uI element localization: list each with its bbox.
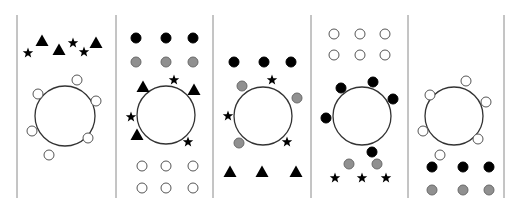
panel-2 xyxy=(126,33,201,193)
gray-circle-icon xyxy=(458,185,468,195)
star-icon xyxy=(357,173,367,183)
star-icon xyxy=(126,112,136,122)
gray-circle-icon xyxy=(237,81,247,91)
gray-circle-icon xyxy=(427,185,437,195)
white-circle-icon xyxy=(473,134,483,144)
star-icon xyxy=(68,38,78,48)
black-circle-icon xyxy=(259,57,269,67)
star-icon xyxy=(282,137,292,147)
white-circle-icon xyxy=(380,50,390,60)
white-circle-icon xyxy=(27,126,37,136)
black-circle-icon xyxy=(484,162,494,172)
gray-circle-icon xyxy=(344,159,354,169)
gray-circle-icon xyxy=(234,138,244,148)
triangle-icon xyxy=(256,166,269,177)
gray-circle-icon xyxy=(484,185,494,195)
star-icon xyxy=(23,48,33,58)
gray-circle-icon xyxy=(161,57,171,67)
black-circle-icon xyxy=(388,94,398,104)
white-circle-icon xyxy=(44,150,54,160)
cell-circle xyxy=(137,86,195,144)
white-circle-icon xyxy=(161,161,171,171)
white-circle-icon xyxy=(137,161,147,171)
triangle-icon xyxy=(224,166,237,177)
black-circle-icon xyxy=(161,33,171,43)
diagram-canvas xyxy=(0,0,518,211)
black-circle-icon xyxy=(229,57,239,67)
white-circle-icon xyxy=(461,76,471,86)
star-icon xyxy=(169,75,179,85)
white-circle-icon xyxy=(380,29,390,39)
cell-circle xyxy=(234,87,292,145)
white-circle-icon xyxy=(137,183,147,193)
panel-3 xyxy=(223,57,303,177)
gray-circle-icon xyxy=(188,57,198,67)
black-circle-icon xyxy=(368,77,378,87)
black-circle-icon xyxy=(367,147,377,157)
star-icon xyxy=(330,173,340,183)
panel-4 xyxy=(321,29,398,182)
white-circle-icon xyxy=(33,89,43,99)
black-circle-icon xyxy=(188,33,198,43)
white-circle-icon xyxy=(435,150,445,160)
gray-circle-icon xyxy=(292,93,302,103)
white-circle-icon xyxy=(72,75,82,85)
white-circle-icon xyxy=(91,96,101,106)
white-circle-icon xyxy=(418,126,428,136)
white-circle-icon xyxy=(188,183,198,193)
cell-circle xyxy=(333,87,391,145)
black-circle-icon xyxy=(131,33,141,43)
panel-1 xyxy=(23,35,103,161)
white-circle-icon xyxy=(188,161,198,171)
white-circle-icon xyxy=(83,133,93,143)
black-circle-icon xyxy=(336,83,346,93)
triangle-icon xyxy=(53,44,66,55)
star-icon xyxy=(223,111,233,121)
black-circle-icon xyxy=(321,113,331,123)
gray-circle-icon xyxy=(372,159,382,169)
star-icon xyxy=(79,47,89,57)
star-icon xyxy=(267,75,277,85)
triangle-icon xyxy=(90,37,103,48)
black-circle-icon xyxy=(286,57,296,67)
diagram-svg xyxy=(0,0,518,211)
triangle-icon xyxy=(137,81,150,92)
white-circle-icon xyxy=(425,90,435,100)
white-circle-icon xyxy=(481,97,491,107)
black-circle-icon xyxy=(458,162,468,172)
triangle-icon xyxy=(188,84,201,95)
white-circle-icon xyxy=(355,29,365,39)
triangle-icon xyxy=(290,166,303,177)
white-circle-icon xyxy=(355,50,365,60)
triangle-icon xyxy=(36,35,49,46)
black-circle-icon xyxy=(427,162,437,172)
star-icon xyxy=(381,173,391,183)
white-circle-icon xyxy=(329,50,339,60)
panel-5 xyxy=(418,76,494,195)
white-circle-icon xyxy=(161,183,171,193)
white-circle-icon xyxy=(329,29,339,39)
gray-circle-icon xyxy=(131,57,141,67)
